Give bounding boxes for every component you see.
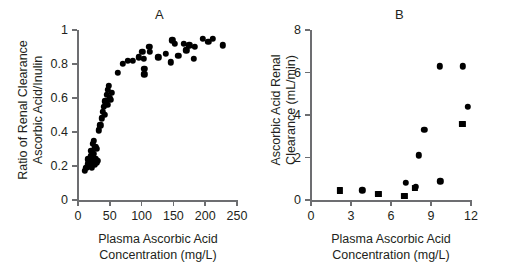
y-tick — [72, 29, 77, 31]
data-point — [105, 83, 111, 89]
x-tick-label: 3 — [348, 209, 355, 223]
panel-a-y-axis — [77, 30, 79, 201]
data-point — [337, 187, 343, 193]
x-tick — [204, 201, 206, 206]
x-tick — [109, 201, 111, 206]
x-tick — [430, 201, 432, 206]
data-point — [460, 63, 466, 69]
y-tick — [305, 199, 310, 201]
y-tick-label: 8 — [253, 23, 301, 37]
data-point — [107, 96, 113, 102]
y-tick-label: 0 — [253, 193, 301, 207]
y-tick — [305, 72, 310, 74]
y-tick — [305, 157, 310, 159]
x-tick-label: 200 — [195, 209, 216, 223]
panel-a-y-axis-title-line1: Ratio of Renal Clearance — [16, 15, 31, 205]
data-point — [140, 56, 146, 62]
panel-a-x-axis-title: Plasma Ascorbic Acid Concentration (mg/L… — [78, 231, 238, 263]
x-tick-label: 9 — [428, 209, 435, 223]
x-tick — [173, 201, 175, 206]
y-tick — [72, 165, 77, 167]
y-tick — [72, 97, 77, 99]
data-point — [192, 44, 198, 50]
y-tick-label: 0.8 — [20, 57, 68, 71]
panel-b-letter: B — [395, 7, 404, 22]
data-point — [401, 193, 407, 199]
data-point — [412, 185, 418, 191]
data-point — [191, 56, 197, 62]
x-tick — [470, 201, 472, 206]
y-tick — [305, 29, 310, 31]
data-point — [94, 146, 100, 152]
data-point — [91, 137, 97, 143]
data-point — [139, 49, 145, 55]
y-tick — [305, 114, 310, 116]
data-point — [168, 59, 174, 65]
data-point — [147, 49, 153, 55]
data-point — [220, 42, 226, 48]
panel-a-x-axis-title-line1: Plasma Ascorbic Acid — [78, 231, 238, 247]
x-tick — [310, 201, 312, 206]
data-point — [104, 102, 110, 108]
data-point — [109, 90, 115, 96]
y-tick-label: 6 — [253, 66, 301, 80]
y-tick-label: 0 — [20, 193, 68, 207]
data-point — [421, 127, 427, 133]
y-tick-label: 1 — [20, 23, 68, 37]
data-point — [155, 54, 161, 60]
data-point — [359, 187, 365, 193]
y-tick-label: 0.4 — [20, 125, 68, 139]
x-tick — [77, 201, 79, 206]
data-point — [129, 57, 135, 63]
x-tick — [390, 201, 392, 206]
panel-a: A Ratio of Renal Clearance Ascorbic Acid… — [0, 0, 256, 274]
panel-b-x-axis-title: Plasma Ascorbic Acid Concentration (mg/L… — [311, 231, 471, 263]
panel-a-x-axis-title-line2: Concentration (mg/L) — [78, 247, 238, 263]
x-tick — [350, 201, 352, 206]
data-point — [96, 127, 102, 133]
data-point — [459, 120, 465, 126]
panel-a-plot-area: 00.20.40.60.81050100150200250 — [78, 30, 237, 200]
data-point — [163, 51, 169, 57]
data-point — [464, 103, 470, 109]
panel-b: B Ascorbic Acid Renal Clearance (mL/min)… — [255, 0, 511, 274]
data-point — [183, 47, 189, 53]
panel-b-x-axis-title-line2: Concentration (mg/L) — [311, 247, 471, 263]
data-point — [416, 152, 422, 158]
data-point — [210, 35, 216, 41]
data-point — [141, 71, 147, 77]
figure-container: A Ratio of Renal Clearance Ascorbic Acid… — [0, 0, 513, 274]
panel-a-x-axis — [77, 200, 238, 202]
x-tick — [236, 201, 238, 206]
data-point — [115, 69, 121, 75]
y-tick — [72, 63, 77, 65]
x-tick-label: 0 — [308, 209, 315, 223]
y-tick-label: 0.6 — [20, 91, 68, 105]
data-point — [437, 178, 443, 184]
data-point — [175, 52, 181, 58]
data-point — [436, 63, 442, 69]
y-tick-label: 0.2 — [20, 159, 68, 173]
x-tick — [141, 201, 143, 206]
x-tick-label: 6 — [388, 209, 395, 223]
y-tick — [72, 131, 77, 133]
x-tick-label: 0 — [75, 209, 82, 223]
data-point — [95, 158, 101, 164]
panel-b-x-axis-title-line1: Plasma Ascorbic Acid — [311, 231, 471, 247]
y-tick-label: 2 — [253, 151, 301, 165]
x-tick-label: 150 — [163, 209, 184, 223]
panel-a-letter: A — [155, 7, 164, 22]
x-tick-label: 100 — [131, 209, 152, 223]
data-point — [97, 122, 103, 128]
panel-b-plot-area: 02468036912 — [311, 30, 471, 200]
y-tick-label: 4 — [253, 108, 301, 122]
panel-b-y-axis — [310, 30, 312, 201]
data-point — [402, 180, 408, 186]
data-point — [102, 112, 108, 118]
y-tick — [72, 199, 77, 201]
x-tick-label: 250 — [227, 209, 248, 223]
x-tick-label: 12 — [464, 209, 478, 223]
panel-a-y-axis-title: Ratio of Renal Clearance Ascorbic Acid/I… — [16, 15, 46, 205]
data-point — [375, 191, 381, 197]
panel-a-y-axis-title-line2: Ascorbic Acid/Inulin — [31, 15, 46, 205]
